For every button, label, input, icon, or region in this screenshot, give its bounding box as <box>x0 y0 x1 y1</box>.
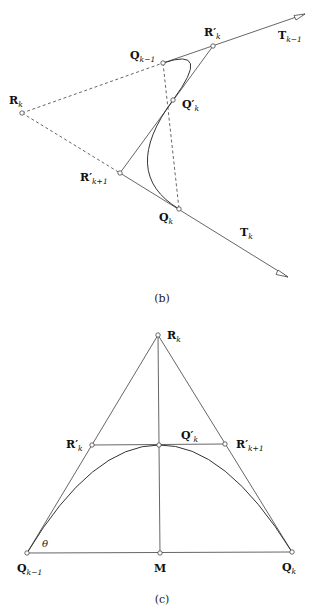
label-q-k-minus-1: Qk−1 <box>130 49 155 64</box>
label-q-prime-k: Q′k <box>182 98 199 113</box>
dashed-rk-rpk1 <box>22 113 120 173</box>
label-r-prime-k: R′k <box>204 26 221 41</box>
point-m <box>158 551 162 555</box>
diagram-b: Qk−1 R′k Tk−1 Rk Q′k R′k+1 Qk Tk (b) <box>9 14 305 305</box>
label-q-k: Qk <box>282 561 297 576</box>
label-t-k-minus-1: Tk−1 <box>278 29 302 44</box>
bezier-curve <box>147 59 190 209</box>
point-r-prime-k-plus-1 <box>118 171 122 175</box>
point-r-prime-k <box>90 443 94 447</box>
point-q-k <box>290 550 294 554</box>
label-q-k: Qk <box>159 211 174 226</box>
dashed-qkm1-qk <box>163 63 179 209</box>
tangent-line-t-k <box>120 173 288 277</box>
arrow-head-icon <box>276 270 288 277</box>
label-r-k: Rk <box>9 94 23 109</box>
caption-c: (c) <box>155 593 170 606</box>
point-r-k <box>156 333 160 337</box>
label-r-k: Rk <box>167 329 181 344</box>
angle-theta-label: θ <box>42 538 48 549</box>
label-m: M <box>154 562 166 575</box>
point-r-prime-k-plus-1 <box>223 442 227 446</box>
label-t-k: Tk <box>240 226 253 241</box>
label-q-prime-k: Q′k <box>181 429 198 444</box>
label-r-prime-k: R′k <box>66 438 83 453</box>
point-q-k-minus-1 <box>161 61 165 65</box>
point-q-k <box>177 207 181 211</box>
point-q-prime-k <box>157 443 161 447</box>
label-r-prime-k-plus-1: R′k+1 <box>236 438 264 453</box>
label-q-k-minus-1: Qk−1 <box>17 562 42 577</box>
arrow-head-icon <box>294 14 305 20</box>
diagram-c: Rk R′k Q′k R′k+1 θ Qk−1 M Qk (c) <box>17 329 297 606</box>
point-r-k <box>20 111 24 115</box>
bezier-diagram-canvas: Qk−1 R′k Tk−1 Rk Q′k R′k+1 Qk Tk (b) Rk … <box>0 0 312 612</box>
caption-b: (b) <box>154 292 170 305</box>
label-r-prime-k-plus-1: R′k+1 <box>80 171 108 186</box>
point-q-prime-k <box>171 98 175 102</box>
point-r-prime-k <box>211 44 215 48</box>
point-q-k-minus-1 <box>25 551 29 555</box>
dashed-rk-qkm1 <box>22 63 163 113</box>
